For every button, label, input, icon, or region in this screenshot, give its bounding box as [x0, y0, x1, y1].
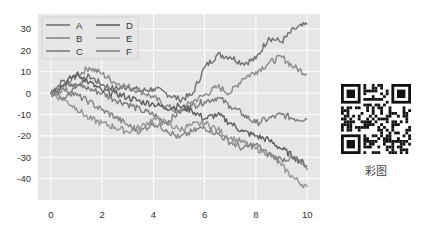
legend-label-D: D	[126, 20, 133, 31]
y-tick-label: 10	[20, 66, 31, 77]
x-tick-label: 6	[202, 209, 207, 220]
x-tick-label: 4	[151, 209, 156, 220]
y-tick-label: -20	[17, 130, 31, 141]
legend-label-C: C	[76, 46, 83, 57]
legend-label-E: E	[126, 33, 132, 44]
x-axis-ticks: 0246810	[48, 209, 312, 220]
x-tick-label: 10	[302, 209, 313, 220]
y-tick-label: 0	[26, 88, 31, 99]
y-tick-label: -30	[17, 152, 31, 163]
legend: ABCDEF	[42, 17, 138, 59]
legend-label-F: F	[126, 46, 132, 57]
legend-label-B: B	[76, 33, 82, 44]
qr-code	[341, 84, 411, 154]
y-tick-label: -40	[17, 173, 31, 184]
legend-label-A: A	[76, 20, 83, 31]
y-axis-ticks: 3020100-10-20-30-40	[17, 23, 31, 184]
qr-caption: 彩图	[341, 162, 411, 178]
y-tick-label: -10	[17, 109, 31, 120]
x-tick-label: 2	[99, 209, 104, 220]
x-tick-label: 8	[253, 209, 258, 220]
y-tick-label: 20	[20, 45, 31, 56]
y-tick-label: 30	[20, 23, 31, 34]
x-tick-label: 0	[48, 209, 53, 220]
